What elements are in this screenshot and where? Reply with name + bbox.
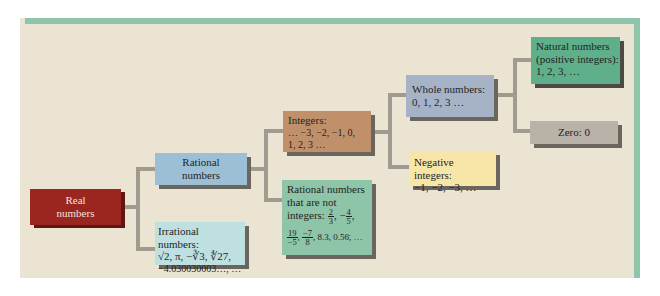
node-integers: Integers: … −3, −2, −1, 0, 1, 2, 3 …: [283, 111, 371, 152]
connector: [388, 93, 406, 97]
node-integers-line2: … −3, −2, −1, 0,: [288, 127, 366, 140]
fraction: 19−5: [287, 229, 298, 246]
node-whole-numbers: Whole numbers: 0, 1, 2, 3 …: [406, 75, 494, 117]
node-irrational-numbers: Irrational numbers: √2, π, −∛3, ∜27, −4.…: [155, 222, 245, 265]
node-nonint-line3: integers: 23, −45,: [287, 208, 367, 225]
node-nonint-line2: that are not: [287, 196, 367, 209]
node-rational-numbers: Rational numbers: [155, 153, 247, 185]
node-nonint-label: integers:: [287, 209, 325, 221]
connector: [136, 167, 155, 171]
node-real-numbers: Real numbers: [30, 189, 121, 225]
node-rational-line1: Rational: [161, 156, 241, 169]
node-zero: Zero: 0: [530, 121, 618, 144]
connector: [136, 247, 155, 251]
frame-right-bar-lower: [634, 146, 640, 278]
node-natural-numbers: Natural numbers (positive integers): 1, …: [531, 37, 620, 84]
connector: [513, 58, 517, 133]
frame-right-bar: [634, 18, 640, 146]
connector: [513, 58, 531, 62]
node-real-line1: Real: [36, 194, 115, 207]
node-negative-integers: Negative integers: −1, −2, −3, …: [409, 151, 496, 186]
node-real-line2: numbers: [36, 207, 115, 220]
node-non-integer-rationals: Rational numbers that are not integers: …: [282, 180, 372, 255]
connector: [264, 129, 268, 202]
connector: [264, 129, 283, 133]
fraction: −78: [302, 229, 313, 246]
node-whole-line2: 0, 1, 2, 3 …: [412, 96, 488, 109]
node-rational-line2: numbers: [161, 169, 241, 182]
node-integers-title: Integers:: [288, 114, 366, 127]
node-nonint-line1: Rational numbers: [287, 183, 367, 196]
frame-top-bar: [25, 18, 640, 24]
node-natural-line3: 1, 2, 3, …: [536, 65, 615, 78]
node-irrational-line3: −4.030030003…, …: [158, 263, 242, 276]
connector: [264, 198, 282, 202]
node-irrational-title: Irrational numbers:: [158, 225, 242, 250]
connector: [388, 93, 392, 169]
connector: [388, 165, 409, 169]
node-zero-label: Zero: 0: [536, 126, 612, 139]
node-nonint-line4: 19−5, −78, 8.3, 0.56̄, …: [287, 229, 367, 246]
node-natural-line1: Natural numbers: [536, 40, 615, 53]
node-whole-title: Whole numbers:: [412, 83, 488, 96]
connector: [136, 167, 140, 251]
node-negative-title: Negative integers:: [414, 156, 491, 181]
node-negative-line2: −1, −2, −3, …: [414, 181, 491, 194]
node-irrational-line2: √2, π, −∛3, ∜27,: [158, 250, 242, 263]
connector: [513, 129, 530, 133]
node-natural-line2: (positive integers):: [536, 53, 615, 66]
node-integers-line3: 1, 2, 3 …: [288, 139, 366, 152]
